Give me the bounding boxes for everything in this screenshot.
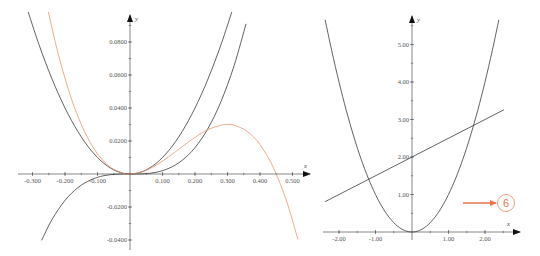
right-x-axis-name: x (506, 220, 510, 227)
y-tick-label: 0.0800 (109, 38, 127, 45)
x-tick-label: 0.300 (220, 177, 235, 184)
y-tick-label: 0.0400 (109, 104, 127, 111)
left-x-axis: x -0.300-0.200-0.1000.1000.2000.3000.400… (18, 162, 310, 184)
right-curves (325, 20, 504, 232)
x-tick-label: -1.00 (369, 235, 383, 242)
curve-y-x-2-20-9-x-3 (48, 10, 298, 239)
right-y-ticks: 5.004.003.002.001.00 (398, 26, 414, 214)
y-tick-label: 3.00 (398, 116, 409, 123)
right-x-axis: x -2.00-1.001.002.00 (323, 220, 520, 242)
x-tick-label: 0.100 (155, 177, 170, 184)
figure: x -0.300-0.200-0.1000.1000.2000.3000.400… (0, 0, 540, 256)
left-chart: x -0.300-0.200-0.1000.1000.2000.3000.400… (18, 8, 310, 250)
step-annotation: 6 (463, 195, 515, 212)
x-tick-label: 0.200 (188, 177, 203, 184)
left-y-axis-name: y (134, 15, 138, 22)
x-tick-label: 2.00 (479, 235, 490, 242)
curve-y-0-5x-2 (325, 110, 504, 202)
x-tick-label: 0.500 (285, 177, 300, 184)
x-tick-label: -2.00 (332, 235, 346, 242)
left-curves (27, 8, 298, 240)
x-tick-label: 0.400 (253, 177, 268, 184)
y-tick-label: -0.0200 (107, 203, 127, 210)
x-tick-label: -0.100 (89, 177, 106, 184)
y-tick-label: 1.00 (398, 191, 409, 198)
y-tick-label: 0.0200 (109, 137, 127, 144)
left-x-axis-name: x (303, 162, 307, 169)
right-y-axis-name: y (416, 16, 420, 23)
y-tick-label: 0.0600 (109, 71, 127, 78)
x-tick-label: -0.200 (57, 177, 74, 184)
left-y-ticks: 0.08000.06000.04000.0200-0.0200-0.0400 (107, 26, 132, 244)
y-tick-label: 5.00 (398, 41, 409, 48)
annotation-number: 6 (503, 197, 509, 209)
right-chart: x -2.00-1.001.002.00 y 5.004.003.002.001… (323, 16, 520, 242)
right-y-axis: y 5.004.003.002.001.00 (398, 16, 420, 240)
y-tick-label: 4.00 (398, 78, 409, 85)
curve-y-2x-3 (42, 24, 246, 240)
x-tick-label: 1.00 (443, 235, 454, 242)
x-tick-label: -0.300 (24, 177, 41, 184)
y-tick-label: -0.0400 (107, 236, 127, 243)
left-y-axis: y 0.08000.06000.04000.0200-0.0200-0.0400 (107, 15, 138, 250)
